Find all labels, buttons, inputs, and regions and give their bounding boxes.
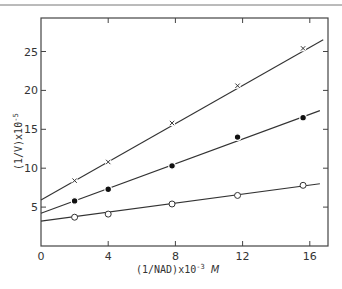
y-tick-labels: 510152025: [24, 46, 38, 215]
axes-box: [41, 18, 328, 246]
y-tick-label: 5: [31, 201, 38, 214]
y-tick-label: 20: [24, 84, 38, 97]
open-circle-marker-icon: [235, 192, 241, 198]
filled-circle-marker-icon: [234, 134, 241, 141]
data-markers: [71, 45, 306, 220]
open-circle-fit-line: [41, 184, 320, 221]
filled-circle-marker-icon: [169, 163, 176, 170]
axis-ticks: [41, 18, 328, 246]
y-axis-label: (1/V)x10-5: [12, 113, 24, 170]
lineweaver-burk-plot: 0481216 510152025 (1/NAD)x10-3 M (1/V)x1…: [0, 0, 342, 289]
y-tick-label: 15: [24, 123, 38, 136]
x-tick-label: 16: [303, 250, 317, 263]
plot-frame: [41, 18, 328, 246]
x-tick-label: 4: [105, 250, 112, 263]
x-tick-label: 12: [236, 250, 250, 263]
open-circle-marker-icon: [105, 211, 111, 217]
fit-lines: [41, 40, 323, 221]
filled-circle-fit-line: [41, 111, 320, 214]
filled-circle-marker-icon: [105, 186, 112, 193]
x-axis-label: (1/NAD)x10-3 M: [136, 263, 220, 275]
x-tick-label: 8: [172, 250, 179, 263]
x-tick-label: 0: [38, 250, 45, 263]
y-tick-label: 25: [24, 46, 38, 59]
filled-circle-marker-icon: [71, 198, 78, 205]
cross-fit-line: [41, 40, 323, 200]
open-circle-marker-icon: [169, 201, 175, 207]
x-tick-labels: 0481216: [38, 250, 317, 263]
open-circle-marker-icon: [72, 214, 78, 220]
filled-circle-marker-icon: [300, 114, 307, 121]
open-circle-marker-icon: [300, 182, 306, 188]
y-tick-label: 10: [24, 162, 38, 175]
